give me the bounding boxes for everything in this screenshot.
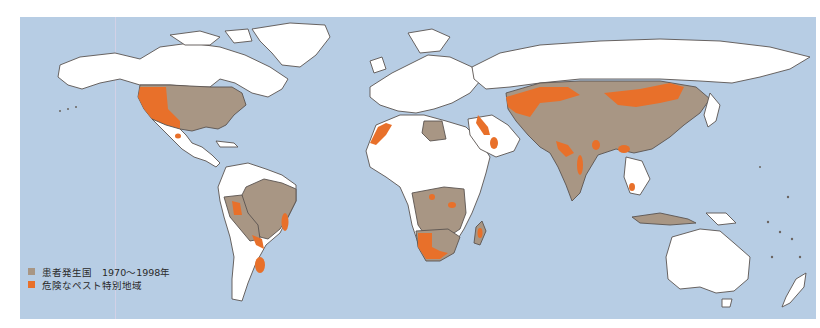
world-map-panel: 患者発生国 1970〜1998年 危険なペスト特別地域 bbox=[20, 17, 816, 319]
legend-item-affected-countries: 患者発生国 1970〜1998年 bbox=[28, 265, 170, 278]
legend-swatch-orange bbox=[28, 281, 35, 288]
new-zealand bbox=[782, 273, 806, 307]
southeast-asia bbox=[624, 157, 650, 195]
legend-swatch-tan bbox=[28, 268, 35, 275]
map-legend: 患者発生国 1970〜1998年 危険なペスト特別地域 bbox=[28, 265, 170, 291]
europe bbox=[370, 55, 480, 113]
legend-item-danger-zones: 危険なペスト特別地域 bbox=[28, 278, 170, 291]
greenland bbox=[252, 23, 330, 67]
indonesia bbox=[632, 213, 696, 225]
legend-label: 患者発生国 1970〜1998年 bbox=[42, 265, 170, 279]
australia bbox=[666, 229, 750, 293]
legend-label: 危険なペスト特別地域 bbox=[42, 278, 142, 292]
